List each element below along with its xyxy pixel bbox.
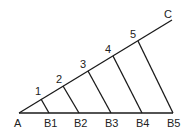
connector-4-b4 [113, 56, 142, 113]
label-a: A [14, 117, 22, 129]
label-point-5: 5 [130, 28, 136, 40]
connector-2-b2 [63, 86, 79, 113]
label-b2: B2 [74, 117, 87, 129]
connector-5-b5 [138, 41, 173, 113]
label-point-2: 2 [56, 73, 62, 85]
connector-1-b1 [41, 99, 49, 113]
label-b3: B3 [105, 117, 118, 129]
label-point-1: 1 [35, 85, 41, 97]
label-b4: B4 [136, 117, 149, 129]
connector-3-b3 [88, 71, 111, 113]
label-b1: B1 [44, 117, 57, 129]
label-c: C [164, 8, 172, 20]
label-point-4: 4 [105, 43, 111, 55]
label-b5: B5 [167, 117, 180, 129]
ray-line-ac [19, 20, 172, 113]
label-point-3: 3 [80, 58, 86, 70]
diagram-canvas: A C 1 2 3 4 5 B1 B2 B3 B4 B5 [0, 0, 188, 131]
